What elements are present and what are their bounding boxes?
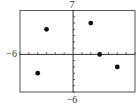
data-point xyxy=(88,21,93,26)
xmin-label: −6 xyxy=(6,48,17,59)
plot-frame xyxy=(20,11,135,93)
ymin-label: −6 xyxy=(67,94,78,105)
data-point xyxy=(35,71,40,76)
data-point xyxy=(115,65,120,70)
axis-ticks xyxy=(20,11,135,93)
data-point xyxy=(97,52,102,57)
scatter-plot: 7 −6 −6 xyxy=(0,0,140,110)
axes xyxy=(20,11,135,93)
data-point xyxy=(44,27,49,32)
data-points xyxy=(35,21,119,76)
ymax-label: 7 xyxy=(70,0,75,10)
